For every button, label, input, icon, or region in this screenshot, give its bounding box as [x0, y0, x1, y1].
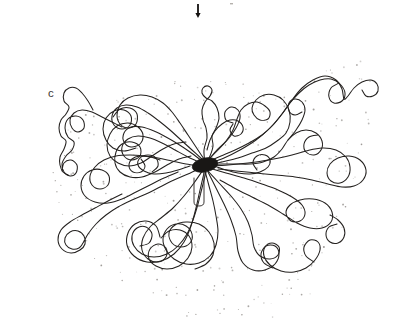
grain-dot: [203, 100, 204, 101]
grain-dot: [252, 177, 254, 179]
grain-dot: [223, 308, 225, 310]
grain-dot: [361, 79, 362, 80]
grain-dot: [164, 263, 165, 264]
grain-dot: [361, 144, 363, 146]
grain-dot: [111, 224, 113, 226]
grain-dot: [318, 205, 319, 206]
grain-dot: [341, 227, 342, 228]
grain-dot: [156, 279, 158, 281]
grain-dot: [126, 162, 127, 163]
grain-dot: [137, 148, 138, 149]
grain-dot: [297, 272, 298, 273]
grain-dot: [302, 162, 304, 164]
grain-dot: [321, 252, 322, 253]
grain-dot: [229, 196, 231, 198]
grain-dot: [271, 303, 272, 304]
grain-dot: [194, 99, 195, 100]
grain-dot: [94, 258, 95, 259]
grain-dot: [318, 92, 319, 93]
grain-dot: [68, 129, 69, 130]
grain-dot: [176, 287, 177, 288]
grain-dot: [242, 196, 244, 198]
grain-dot: [245, 128, 247, 130]
grain-dot: [253, 95, 254, 96]
grain-dot: [116, 227, 118, 229]
grain-dot: [341, 119, 343, 121]
grain-dot: [225, 84, 226, 85]
grain-dot: [280, 180, 281, 181]
grain-dot: [89, 157, 90, 158]
grain-dot: [319, 178, 320, 179]
grain-dot: [231, 267, 233, 269]
grain-dot: [255, 186, 257, 188]
grain-dot: [205, 90, 206, 91]
grain-dot: [186, 315, 188, 317]
grain-dot: [147, 250, 148, 251]
grain-dot: [175, 149, 176, 150]
grain-dot: [205, 148, 206, 149]
grain-dot: [93, 134, 95, 136]
grain-dot: [169, 107, 170, 108]
grain-dot: [180, 174, 182, 176]
grain-dot: [197, 289, 199, 291]
grain-dot: [214, 119, 216, 121]
figure-panel-c: c: [0, 0, 395, 327]
grain-dot: [301, 294, 303, 296]
grain-dot: [311, 211, 312, 212]
grain-dot: [116, 100, 117, 101]
grain-dot: [96, 228, 97, 229]
grain-dot: [305, 100, 307, 102]
grain-dot: [70, 149, 71, 150]
grain-dot: [253, 299, 255, 301]
top-speck-mark: [230, 3, 233, 4]
grain-dot: [259, 93, 260, 94]
grain-dot: [125, 120, 127, 122]
grain-dot: [121, 280, 123, 282]
grain-dot: [323, 246, 325, 248]
grain-dot: [161, 290, 162, 291]
grain-dot: [291, 253, 293, 255]
grain-dot: [224, 185, 225, 186]
grain-dot: [87, 111, 88, 112]
grain-dot: [288, 172, 289, 173]
grain-dot: [166, 294, 168, 296]
grain-dot: [292, 131, 293, 132]
grain-dot: [360, 61, 362, 63]
grain-dot: [244, 211, 245, 212]
grain-dot: [103, 181, 105, 183]
grain-dot: [272, 131, 273, 132]
grain-dot: [157, 245, 159, 247]
grain-dot: [165, 196, 166, 197]
grain-dot: [210, 81, 211, 82]
grain-dot: [71, 152, 73, 154]
grain-dot: [200, 127, 202, 129]
grain-dot: [238, 309, 239, 310]
grain-dot: [120, 272, 121, 273]
grain-dot: [250, 124, 251, 125]
grain-dot: [73, 152, 74, 153]
grain-dot: [346, 171, 347, 172]
grain-dot: [160, 136, 162, 138]
grain-dot: [219, 267, 221, 269]
grain-dot: [290, 287, 291, 288]
grain-dot: [72, 214, 73, 215]
grain-dot: [141, 182, 142, 183]
grain-dot: [125, 182, 126, 183]
grain-dot: [145, 222, 147, 224]
grain-dot: [335, 156, 336, 157]
grain-dot: [104, 164, 105, 165]
grain-dot: [283, 105, 285, 107]
grain-dot: [213, 289, 214, 290]
grain-dot: [180, 194, 181, 195]
grain-dot: [70, 131, 71, 132]
grain-dot: [343, 66, 345, 68]
grain-dot: [197, 87, 199, 89]
grain-dot: [210, 267, 212, 269]
grain-dot: [207, 221, 208, 222]
grain-dot: [300, 207, 302, 209]
grain-dot: [194, 244, 196, 246]
grain-dot: [225, 82, 226, 83]
grain-dot: [184, 208, 186, 210]
grain-dot: [185, 213, 187, 215]
grain-dot: [81, 216, 82, 217]
